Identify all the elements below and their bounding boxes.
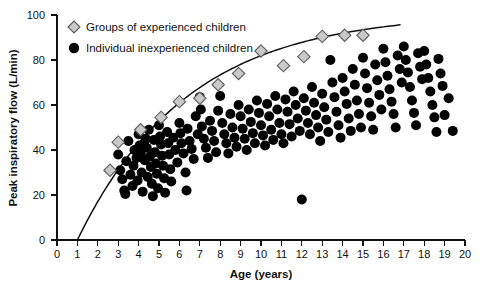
x-tick-label: 2: [95, 248, 101, 260]
data-point-individual: [113, 150, 123, 160]
data-point-individual: [244, 105, 254, 115]
data-point-individual: [336, 133, 346, 143]
data-point-individual: [236, 111, 246, 121]
x-tick-label: 4: [136, 248, 142, 260]
data-point-individual: [409, 108, 419, 118]
data-point-individual: [242, 145, 252, 155]
chart-canvas: 0 20 40 60 80 100 0123456789101112131415…: [0, 0, 483, 292]
data-point-individual: [223, 148, 233, 158]
x-tick-label: 1: [74, 248, 80, 260]
data-point-individual: [368, 125, 378, 135]
peak-inspiratory-flow-scatter-figure: 0 20 40 60 80 100 0123456789101112131415…: [0, 0, 483, 292]
data-point-individual: [285, 119, 295, 129]
data-point-individual: [348, 64, 358, 74]
x-tick-label: 9: [238, 248, 244, 260]
data-point-individual: [196, 105, 206, 115]
data-point-group: [298, 50, 310, 62]
data-point-individual: [387, 97, 397, 107]
data-point-individual: [209, 136, 219, 146]
data-point-individual: [372, 75, 382, 85]
data-point-individual: [431, 127, 441, 137]
data-point-individual: [199, 134, 209, 144]
data-point-individual: [366, 111, 376, 121]
data-point-individual: [260, 141, 270, 151]
data-point-individual: [364, 98, 374, 108]
data-point-individual: [362, 83, 372, 93]
x-tick-label: 20: [459, 248, 471, 260]
data-point-individual: [429, 112, 439, 122]
x-tick-label: 17: [398, 248, 410, 260]
data-point-individual: [227, 123, 237, 133]
data-point-individual: [331, 107, 341, 117]
data-point-group: [194, 92, 206, 104]
data-point-individual: [360, 69, 370, 79]
data-point-individual: [246, 117, 256, 127]
data-point-individual: [311, 110, 321, 120]
data-point-individual: [160, 188, 170, 198]
data-point-individual: [299, 93, 309, 103]
x-tick-label: 5: [156, 248, 162, 260]
data-point-individual: [344, 114, 354, 124]
data-point-individual: [221, 138, 231, 148]
data-point-individual: [270, 91, 280, 101]
data-point-individual: [240, 134, 250, 144]
data-point-individual: [329, 92, 339, 102]
data-point-individual: [229, 133, 239, 143]
data-point-individual: [266, 125, 276, 135]
data-point-individual: [427, 100, 437, 110]
data-point-group: [277, 59, 289, 71]
data-point-individual: [264, 111, 274, 121]
data-point-individual: [213, 106, 223, 116]
data-point-individual: [256, 120, 266, 130]
data-point-individual: [444, 93, 454, 103]
y-axis-ticks: [51, 15, 57, 240]
data-point-individual: [301, 106, 311, 116]
data-point-individual: [225, 109, 235, 119]
legend-label-groups: Groups of experienced children: [86, 21, 246, 33]
y-tick-label: 60: [33, 99, 45, 111]
x-tick-label: 16: [377, 248, 389, 260]
data-point-individual: [307, 82, 317, 92]
data-point-individual: [356, 123, 366, 133]
data-point-individual: [205, 116, 215, 126]
y-tick-label: 0: [39, 234, 45, 246]
data-point-individual: [254, 108, 264, 118]
data-point-individual: [327, 78, 337, 88]
data-point-individual: [385, 84, 395, 94]
x-tick-label: 8: [217, 248, 223, 260]
data-point-individual: [215, 91, 225, 101]
x-tick-label: 19: [438, 248, 450, 260]
x-tick-label: 7: [197, 248, 203, 260]
data-point-group: [232, 67, 244, 79]
data-point-individual: [399, 42, 409, 52]
data-point-individual: [258, 130, 268, 140]
x-tick-label: 3: [115, 248, 121, 260]
data-point-individual: [370, 60, 380, 70]
data-point-individual: [401, 55, 411, 65]
data-point-individual: [438, 81, 448, 91]
x-axis-ticks: [57, 240, 465, 246]
data-point-individual: [289, 87, 299, 97]
data-point-individual: [207, 126, 217, 136]
data-point-individual: [305, 129, 315, 139]
data-point-individual: [287, 132, 297, 142]
data-point-individual: [250, 138, 260, 148]
data-point-individual: [407, 96, 417, 106]
data-point-individual: [433, 54, 443, 64]
data-point-individual: [389, 109, 399, 119]
y-axis-title: Peak inspiratory flow (L/min): [7, 49, 19, 206]
data-point-individual: [354, 109, 364, 119]
y-tick-label: 80: [33, 54, 45, 66]
data-point-individual: [274, 118, 284, 128]
data-point-individual: [181, 168, 191, 178]
data-point-individual: [120, 189, 130, 199]
data-point-individual: [425, 87, 435, 97]
data-point-individual: [166, 177, 176, 187]
data-point-individual: [334, 120, 344, 130]
data-point-individual: [317, 89, 327, 99]
data-point-individual: [340, 87, 350, 97]
data-point-individual: [201, 143, 211, 153]
x-tick-label: 10: [255, 248, 267, 260]
data-point-individual: [203, 153, 213, 163]
data-point-individual: [234, 100, 244, 110]
